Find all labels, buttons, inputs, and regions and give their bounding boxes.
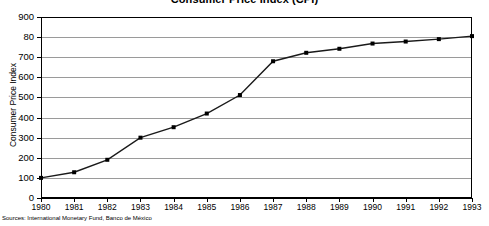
source-note: Sources: International Monetary Fund, Ba… xyxy=(2,215,152,221)
data-point-marker xyxy=(72,170,76,174)
data-point-marker xyxy=(205,112,209,116)
data-point-marker xyxy=(39,176,43,180)
data-point-marker xyxy=(271,59,275,63)
data-point-marker xyxy=(371,42,375,46)
data-point-marker xyxy=(437,37,441,41)
data-point-marker xyxy=(172,125,176,129)
data-point-marker xyxy=(105,158,109,162)
data-point-marker xyxy=(337,47,341,51)
data-point-marker xyxy=(138,136,142,140)
cpi-chart: Consumer Price Index (CPI) Consumer Pric… xyxy=(0,0,489,226)
series-line xyxy=(41,36,472,178)
data-point-marker xyxy=(470,34,474,38)
series-layer xyxy=(0,0,489,226)
data-point-marker xyxy=(404,40,408,44)
data-point-marker xyxy=(304,51,308,55)
data-point-marker xyxy=(238,93,242,97)
